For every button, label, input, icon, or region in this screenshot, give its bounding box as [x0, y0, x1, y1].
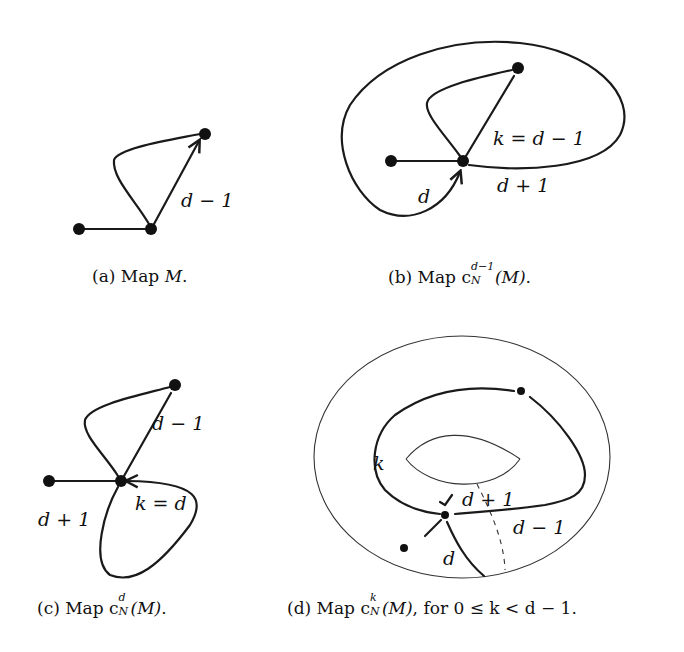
caption-a: (a) Map M. [92, 266, 187, 286]
caption-b: (b) Map cd−1N(M). [388, 266, 531, 287]
caption-superscript: d−1 [471, 260, 494, 273]
vertex [73, 223, 85, 235]
vertex [199, 128, 211, 140]
edge-d-leaf [425, 520, 441, 536]
vertex [115, 475, 127, 487]
figure-canvas: d − 1 k = d − 1 d + 1 d d − 1 k = d d + … [0, 0, 684, 652]
caption-subscript: N [119, 605, 129, 618]
edge-label: d [443, 547, 455, 569]
caption-math: (M) [495, 267, 526, 287]
edge-c-edge [124, 393, 171, 476]
vertex [517, 387, 525, 395]
caption-suffix: . [161, 598, 166, 618]
edge-label: k = d [135, 492, 187, 514]
caption-scripts: d−1N [471, 266, 495, 283]
caption-superscript: d [119, 591, 126, 604]
caption-c: (c) Map cdN(M). [37, 597, 167, 618]
caption-text: (a) Map [92, 266, 165, 286]
vertex [457, 155, 469, 167]
vertex [512, 62, 524, 74]
vertex [43, 475, 55, 487]
caption-math: (M) [131, 598, 162, 618]
caption-text: (d) Map c [287, 598, 370, 618]
caption-subscript: N [370, 605, 380, 618]
vertex [385, 155, 397, 167]
edge-label: k = d − 1 [493, 127, 585, 149]
caption-superscript: k [370, 591, 377, 604]
edge-label: d [418, 185, 430, 207]
vertex [400, 544, 408, 552]
caption-text: (b) Map c [388, 267, 471, 287]
caption-suffix: , for 0 ≤ k < d − 1. [413, 598, 577, 618]
torus-hole-bottom [406, 459, 520, 484]
edge-label: k [373, 452, 385, 474]
panel-d: k d + 1 d − 1 d [314, 336, 610, 578]
caption-scripts: kN [370, 597, 382, 614]
arrow-d-tick [440, 495, 452, 505]
caption-suffix: . [526, 267, 531, 287]
panel-a: d − 1 [73, 128, 233, 235]
caption-scripts: dN [119, 597, 131, 614]
torus-outline [314, 336, 610, 578]
edge-a-arrow [154, 141, 199, 224]
edge-label: d − 1 [152, 412, 204, 434]
caption-math: M [165, 266, 182, 286]
panel-b: k = d − 1 d + 1 d [342, 42, 624, 216]
caption-d: (d) Map ckN(M), for 0 ≤ k < d − 1. [287, 597, 577, 618]
panel-c: d − 1 k = d d + 1 [38, 379, 204, 578]
caption-suffix: . [182, 266, 187, 286]
vertex [169, 379, 181, 391]
caption-math: (M) [382, 598, 413, 618]
torus-hole-top [406, 435, 520, 459]
edge-label: d − 1 [181, 189, 233, 211]
caption-subscript: N [471, 274, 481, 287]
edge-label: d + 1 [462, 488, 514, 510]
vertex [441, 511, 449, 519]
caption-text: (c) Map c [37, 598, 119, 618]
edge-label: d + 1 [38, 508, 90, 530]
edge-label: d − 1 [513, 516, 565, 538]
edge-label: d + 1 [497, 174, 549, 196]
vertex [145, 223, 157, 235]
